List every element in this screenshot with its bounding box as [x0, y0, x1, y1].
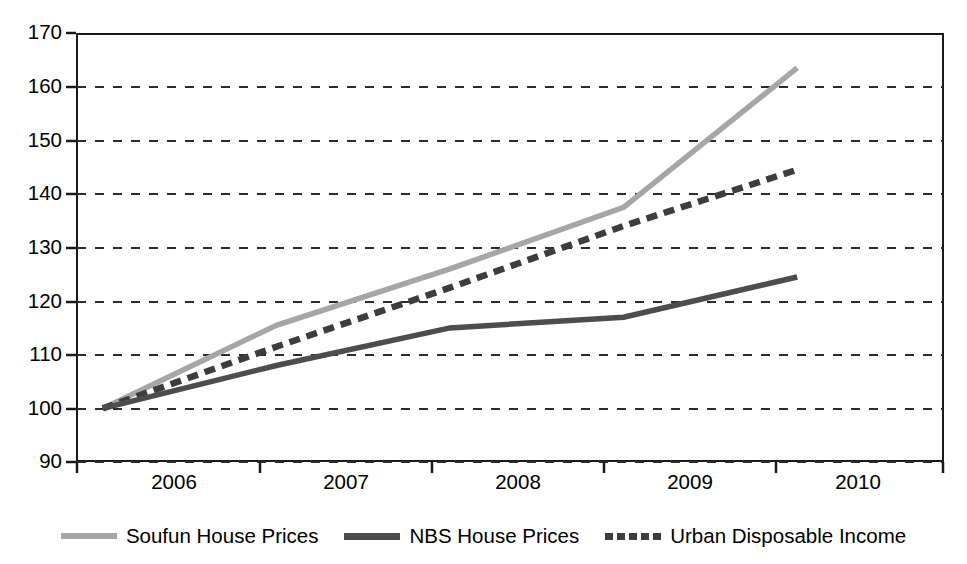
y-axis-label-170: 170	[4, 22, 62, 43]
line-chart: 170 160 150 140 130 120 110 100 90 2006 …	[0, 0, 967, 564]
legend-swatch-soufun-line-icon	[61, 533, 117, 539]
legend-item-nbs-house-prices: NBS House Prices	[344, 525, 579, 547]
y-axis-label-100: 100	[4, 398, 62, 419]
x-axis-label-2009: 2009	[630, 470, 750, 494]
y-axis-label-120: 120	[4, 291, 62, 312]
x-axis-label-2006: 2006	[114, 470, 234, 494]
plot-area	[76, 33, 944, 462]
legend-label-nbs-house-prices: NBS House Prices	[409, 525, 579, 547]
y-axis-label-140: 140	[4, 183, 62, 204]
x-axis: 2006 2007 2008 2009 2010	[0, 470, 967, 506]
legend-swatch-nbs-line-icon	[344, 533, 400, 540]
legend-item-urban-disposable-income: Urban Disposable Income	[605, 525, 906, 547]
y-axis-label-160: 160	[4, 76, 62, 97]
y-axis-ticks	[66, 33, 76, 462]
legend-item-soufun-house-prices: Soufun House Prices	[61, 525, 319, 547]
x-axis-label-2008: 2008	[458, 470, 578, 494]
x-axis-label-2010: 2010	[798, 470, 918, 494]
x-axis-label-2007: 2007	[286, 470, 406, 494]
legend-label-soufun-house-prices: Soufun House Prices	[126, 525, 319, 547]
legend-label-urban-disposable-income: Urban Disposable Income	[670, 525, 906, 547]
y-axis-label-150: 150	[4, 130, 62, 151]
y-axis-label-130: 130	[4, 237, 62, 258]
y-axis-label-90: 90	[4, 451, 62, 472]
y-axis-label-110: 110	[4, 344, 62, 365]
chart-legend: Soufun House Prices NBS House Prices Urb…	[0, 519, 967, 553]
legend-swatch-urban-disposable-income-line-icon	[605, 533, 661, 540]
